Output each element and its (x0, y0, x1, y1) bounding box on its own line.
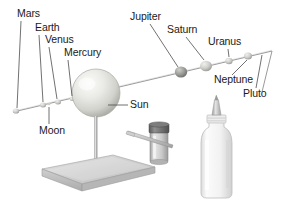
sun-sphere (72, 69, 120, 117)
bead-neptune (244, 53, 252, 60)
leader-mars (17, 21, 21, 108)
bead-jupiter (175, 66, 187, 77)
label-venus: Venus (45, 34, 74, 45)
label-mercury: Mercury (64, 47, 101, 58)
glue-bottle (201, 95, 232, 198)
label-jupiter: Jupiter (130, 11, 161, 22)
label-neptune: Neptune (214, 74, 253, 85)
label-sun: Sun (130, 99, 148, 110)
leader-saturn (186, 37, 204, 60)
bead-uranus (225, 58, 232, 64)
leader-venus (49, 47, 57, 99)
bead-venus (55, 100, 61, 105)
bead-saturn (200, 61, 212, 71)
label-uranus: Uranus (208, 36, 241, 47)
bead-moon (48, 103, 51, 106)
label-mars: Mars (17, 8, 40, 19)
leader-uranus (228, 49, 229, 57)
bead-earth (40, 103, 46, 108)
label-earth: Earth (35, 22, 60, 33)
label-saturn: Saturn (167, 24, 197, 35)
leader-pluto (256, 55, 262, 88)
leader-earth (39, 35, 43, 102)
label-pluto: Pluto (243, 88, 266, 99)
base-plate (42, 155, 155, 191)
solar-system-model-diagram: Mars Earth Venus Mercury Moon Sun Jupite… (0, 0, 286, 207)
label-moon: Moon (39, 125, 65, 136)
bead-mars (13, 108, 19, 113)
leader-mercury (68, 60, 72, 96)
